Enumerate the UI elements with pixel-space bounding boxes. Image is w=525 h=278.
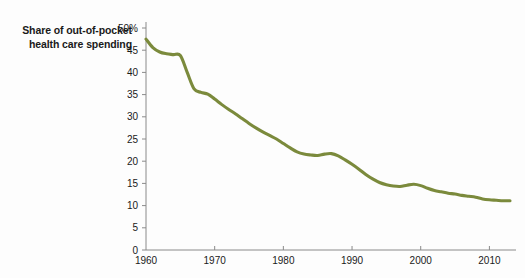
y-axis-tick-label: 45 bbox=[127, 45, 139, 56]
x-axis-tick-label: 2000 bbox=[410, 255, 433, 266]
x-axis-tick-label: 1960 bbox=[135, 255, 158, 266]
x-axis-tick-label: 1970 bbox=[204, 255, 227, 266]
x-axis-tick-label: 1980 bbox=[272, 255, 295, 266]
y-axis-tick-label: 35 bbox=[127, 89, 139, 100]
y-axis-tick-label: 20 bbox=[127, 156, 139, 167]
chart-page: Share of out-of-pocket health care spend… bbox=[0, 0, 525, 278]
line-chart: 05101520253035404550% 196019701980199020… bbox=[0, 0, 525, 278]
y-axis-tick-label: 40 bbox=[127, 67, 139, 78]
y-axis-tick-label: 5 bbox=[132, 222, 138, 233]
y-axis-tick-group: 05101520253035404550% bbox=[118, 23, 146, 256]
x-axis-tick-group: 196019701980199020002010 bbox=[135, 246, 501, 266]
x-axis-tick-label: 1990 bbox=[341, 255, 364, 266]
y-axis-tick-label: 10 bbox=[127, 200, 139, 211]
x-axis-tick-label: 2010 bbox=[478, 255, 501, 266]
data-series-line bbox=[146, 39, 510, 201]
y-axis-tick-label: 15 bbox=[127, 178, 139, 189]
y-axis-tick-label: 25 bbox=[127, 134, 139, 145]
y-axis-tick-label: 30 bbox=[127, 111, 139, 122]
y-axis-tick-label: 50% bbox=[118, 23, 138, 34]
y-axis-tick-label: 0 bbox=[132, 245, 138, 256]
